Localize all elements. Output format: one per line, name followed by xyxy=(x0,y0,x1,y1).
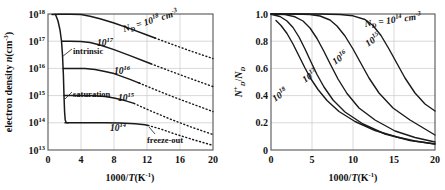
left-curves-dotted xyxy=(134,38,213,145)
left-chart-panel: 1013 1014 1015 1016 1017 1018 0 4 8 12 1… xyxy=(0,0,225,190)
right-ytick-0: 0 xyxy=(263,145,268,156)
right-curve-label-1e18: 1018 xyxy=(269,84,290,103)
left-chart-svg: 1013 1014 1015 1016 1017 1018 0 4 8 12 1… xyxy=(0,0,225,190)
right-xtick-0: 0 xyxy=(269,154,274,165)
right-ytick-5: 1.0 xyxy=(256,9,269,20)
right-ytick-3: 0.6 xyxy=(256,63,269,74)
left-curves-solid xyxy=(52,14,155,125)
right-chart-panel: 0 0.2 0.4 0.6 0.8 1.0 0 5 10 15 20 1000/… xyxy=(225,0,445,190)
left-x-tick-labels: 0 4 8 12 16 20 xyxy=(46,154,219,165)
left-xtick-3: 12 xyxy=(142,154,152,165)
right-xtick-2: 10 xyxy=(348,154,358,165)
figure-container: 1013 1014 1015 1016 1017 1018 0 4 8 12 1… xyxy=(0,0,445,190)
right-y-tick-labels: 0 0.2 0.4 0.6 0.8 1.0 xyxy=(256,9,269,156)
left-gridlines xyxy=(48,14,213,150)
right-y-axis-label: N+D/ND xyxy=(232,67,246,99)
left-curve-label-1e14: 1014 xyxy=(110,121,127,133)
left-legend-label: ND = 1018 cm-3 xyxy=(120,6,180,36)
right-legend-label: ND = 1014 cm-3 xyxy=(363,9,423,30)
left-annotation-intrinsic: intrinsic xyxy=(73,46,103,56)
left-plot-frame xyxy=(48,14,213,150)
right-chart-svg: 0 0.2 0.4 0.6 0.8 1.0 0 5 10 15 20 1000/… xyxy=(225,0,445,190)
left-ytick-0: 1013 xyxy=(29,144,46,156)
right-xtick-3: 15 xyxy=(389,154,399,165)
right-ytick-4: 0.8 xyxy=(256,36,269,47)
right-x-axis-label: 1000/T(K-1) xyxy=(329,171,378,184)
left-xtick-0: 0 xyxy=(46,154,51,165)
left-xtick-4: 16 xyxy=(175,154,185,165)
left-ytick-1: 1014 xyxy=(29,116,46,128)
right-ytick-1: 0.2 xyxy=(256,117,269,128)
left-xtick-1: 4 xyxy=(79,154,84,165)
curve-nd-1e14 xyxy=(65,123,148,126)
right-xtick-4: 20 xyxy=(430,154,440,165)
right-curve-label-1e15: 1015 xyxy=(362,29,383,48)
right-gridlines xyxy=(271,14,435,150)
left-ytick-2: 1015 xyxy=(29,89,46,101)
left-curve-label-1e16: 1016 xyxy=(114,64,131,76)
right-x-tick-labels: 0 5 10 15 20 xyxy=(269,154,441,165)
left-curve-label-1e15: 1015 xyxy=(118,91,135,103)
left-y-tick-labels: 1013 1014 1015 1016 1017 1018 xyxy=(29,8,46,156)
left-ytick-4: 1017 xyxy=(29,35,46,47)
left-xtick-2: 8 xyxy=(112,154,117,165)
left-ytick-3: 1016 xyxy=(29,62,46,74)
left-xtick-5: 20 xyxy=(208,154,218,165)
left-ytick-5: 1018 xyxy=(29,8,46,20)
left-y-axis-label: electron density n(cm-3) xyxy=(2,32,15,132)
left-annotation-freeze-out: freeze-out xyxy=(147,135,183,145)
curve-nd-1e16-dotted xyxy=(139,83,213,112)
right-ytick-2: 0.4 xyxy=(256,90,269,101)
right-xtick-1: 5 xyxy=(310,154,315,165)
left-annotation-saturation: saturation xyxy=(73,89,111,99)
right-curve-label-1e16: 1016 xyxy=(329,47,350,66)
curve-nd-1e15-dotted xyxy=(134,103,213,134)
curve-nd-1e17-dotted xyxy=(151,64,213,87)
left-x-axis-label: 1000/T(K-1) xyxy=(106,171,155,184)
